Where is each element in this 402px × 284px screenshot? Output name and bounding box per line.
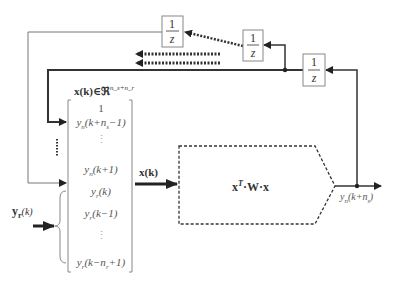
state-space-dimension: n_s+n_r (110, 84, 134, 92)
matrix-row-5: yr(k−1) (68, 208, 134, 222)
junction-dot-output (355, 184, 359, 188)
matrix-row-6: yr(k−nr+1) (68, 257, 134, 271)
delay-3-denominator: z (304, 72, 324, 84)
state-space-main: x(k)∈ℜ (74, 85, 110, 97)
block-diagram: 1 z 1 z 1 z x(k)∈ℜn_s+n_r 1 yn(k+ns−1) ⋮… (0, 0, 402, 284)
junction-dot-top (283, 68, 287, 72)
matrix-row-4: yr(k) (68, 186, 134, 200)
matrix-row-ellipsis-2: ⋮ (68, 230, 134, 241)
vector-input-label: x(k) (139, 167, 158, 178)
dotted-diagonal-arrow (185, 32, 243, 46)
matrix-row-ellipsis-1: ⋮ (68, 134, 134, 145)
delay-3-input-line (326, 70, 357, 186)
output-label: yn(k+ns) (340, 192, 373, 205)
input-curly-brace (55, 191, 66, 263)
delay-3-numerator: 1 (304, 56, 324, 68)
diagram-lines (0, 0, 402, 284)
delay-1-denominator: z (162, 33, 182, 45)
matrix-row-3: yn(k+1) (68, 164, 134, 178)
delay-1-numerator: 1 (162, 18, 182, 30)
block-expression: xT·W·x (232, 180, 269, 193)
matrix-row-2: yn(k+ns−1) (68, 117, 134, 131)
delay-2-input-line (264, 45, 285, 70)
input-label: yr(k) (12, 205, 33, 220)
matrix-row-1: 1 (68, 103, 134, 114)
state-space-label: x(k)∈ℜn_s+n_r (74, 85, 134, 97)
delay-2-denominator: z (243, 47, 263, 59)
delay-2-numerator: 1 (243, 32, 263, 44)
